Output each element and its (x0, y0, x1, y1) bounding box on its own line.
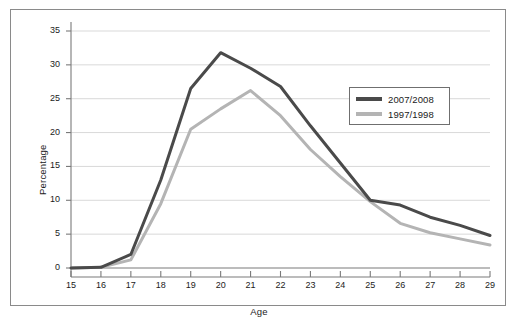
chart-legend: 2007/2008 1997/1998 (349, 87, 450, 125)
x-tick-label: 28 (449, 280, 471, 290)
x-tick-label: 25 (359, 280, 381, 290)
legend-label-0: 2007/2008 (388, 94, 434, 105)
y-tick-label: 35 (38, 25, 60, 35)
y-tick-label: 5 (38, 228, 60, 238)
series-lines (71, 53, 490, 268)
y-axis (66, 22, 71, 277)
x-axis-title: Age (0, 306, 518, 317)
legend-swatch-light (356, 112, 382, 116)
y-tick-label: 25 (38, 93, 60, 103)
chart-frame: Percentage 2007/2008 1997/1998 051015202… (10, 9, 506, 306)
y-tick-label: 20 (38, 127, 60, 137)
y-tick-label: 10 (38, 194, 60, 204)
x-tick-label: 21 (240, 280, 262, 290)
y-tick-label: 0 (38, 262, 60, 272)
x-tick-label: 19 (180, 280, 202, 290)
x-tick-label: 16 (90, 280, 112, 290)
x-tick-label: 27 (419, 280, 441, 290)
x-tick-label: 23 (299, 280, 321, 290)
chart-plot-area (11, 10, 505, 305)
x-tick-label: 18 (150, 280, 172, 290)
legend-entry-2007-2008: 2007/2008 (356, 92, 434, 106)
x-tick-label: 17 (120, 280, 142, 290)
x-tick-label: 24 (329, 280, 351, 290)
x-tick-label: 29 (479, 280, 501, 290)
x-tick-label: 15 (60, 280, 82, 290)
x-axis (71, 271, 490, 277)
x-tick-label: 22 (270, 280, 292, 290)
figure-root: Percentage 2007/2008 1997/1998 051015202… (0, 0, 518, 327)
figure-caption (12, 318, 512, 327)
x-tick-label: 20 (210, 280, 232, 290)
legend-label-1: 1997/1998 (388, 109, 434, 120)
y-tick-label: 30 (38, 59, 60, 69)
legend-swatch-dark (356, 97, 382, 101)
legend-entry-1997-1998: 1997/1998 (356, 107, 434, 121)
x-tick-label: 26 (389, 280, 411, 290)
y-tick-label: 15 (38, 160, 60, 170)
